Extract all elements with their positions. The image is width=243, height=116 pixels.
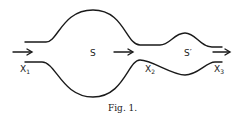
arrow-right-icon bbox=[213, 49, 230, 55]
figure-caption: Fig. 1. bbox=[108, 103, 137, 113]
arrow-right-icon bbox=[114, 49, 133, 55]
arrow-right-icon bbox=[13, 49, 32, 55]
chamber-label-s-prime: S′ bbox=[184, 48, 192, 58]
flow-diagram: X1 S X2 S′ X3 Fig. 1. bbox=[0, 0, 243, 116]
position-label-x2: X2 bbox=[145, 64, 155, 75]
chamber-label-s: S bbox=[90, 48, 96, 58]
position-label-x3: X3 bbox=[214, 64, 224, 75]
position-label-x1: X1 bbox=[20, 64, 30, 75]
lower-wall bbox=[25, 60, 222, 97]
upper-wall bbox=[25, 10, 222, 47]
